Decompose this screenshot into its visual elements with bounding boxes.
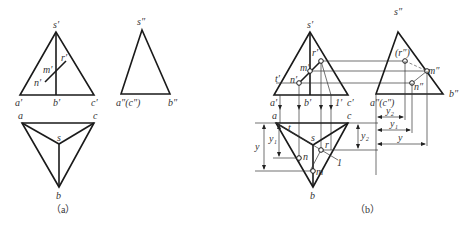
label-c: c	[347, 110, 352, 121]
label-c-prime: c′	[347, 97, 354, 108]
projection-diagram: s′ a′ b′ c′ m′ n′ r′ s″ a″(c″) b″ a c s …	[0, 0, 470, 231]
label-s-prime: s′	[53, 19, 60, 30]
label-t: t	[288, 122, 291, 133]
dim-y1-top: y₁	[268, 133, 277, 144]
label-b-prime: b′	[53, 97, 61, 108]
label-r-dprime: (r″)	[395, 47, 410, 59]
label-s: s	[57, 132, 61, 143]
caption-b: （b）	[355, 204, 380, 215]
top-view-b: a c s b n m r t 1 y y₁ y₂	[254, 110, 378, 201]
front-view-a: s′ a′ b′ c′ m′ n′ r′	[15, 19, 98, 108]
dim-y2-side: y₂	[385, 105, 394, 116]
label-b-dprime: b″	[168, 97, 178, 108]
label-s: s	[311, 132, 315, 143]
label-ac-dprime: a″(c″)	[116, 97, 141, 109]
label-s-dprime: s″	[394, 6, 403, 17]
dim-y2-top: y₂	[360, 130, 369, 141]
label-c-prime: c′	[91, 97, 98, 108]
dim-y1-side: y₁	[389, 118, 398, 129]
label-n-prime: n′	[34, 77, 42, 88]
dim-y-top: y	[254, 141, 260, 152]
panel-b: s′ a′ b′ 1′ c′ m′ n′ r′ t′	[254, 6, 459, 215]
label-b: b	[56, 190, 61, 201]
label-r: r	[325, 139, 329, 150]
label-n-prime: n′	[290, 74, 298, 85]
side-view-b: s″ a″(c″) b″ m″ n″ (r″) y₂ y₁ y	[370, 6, 459, 175]
label-r-prime: r′	[312, 47, 319, 58]
label-b-dprime: b″	[449, 88, 459, 99]
top-view-a: a c s b	[18, 110, 98, 201]
label-m-dprime: m″	[428, 65, 440, 76]
label-r-prime: r′	[61, 52, 68, 63]
label-a-prime: a′	[15, 97, 23, 108]
label-n: n	[303, 151, 308, 162]
panel-a: s′ a′ b′ c′ m′ n′ r′ s″ a″(c″) b″ a c s …	[15, 16, 178, 215]
label-m: m	[316, 166, 323, 177]
label-a: a	[18, 110, 23, 121]
label-b-prime: b′	[304, 97, 312, 108]
label-m-prime: m′	[300, 62, 310, 73]
label-t-prime: t′	[275, 73, 281, 84]
caption-a: （a）	[51, 204, 75, 215]
label-a-prime: a′	[270, 97, 278, 108]
label-s-prime: s′	[307, 19, 314, 30]
label-n-dprime: n″	[414, 81, 424, 92]
label-a: a	[272, 110, 277, 121]
label-m-prime: m′	[43, 64, 53, 75]
label-1: 1	[337, 157, 342, 168]
label-c: c	[93, 110, 98, 121]
label-1-prime: 1′	[335, 97, 343, 108]
label-b: b	[310, 190, 315, 201]
label-s-dprime: s″	[137, 16, 146, 27]
dim-y-side: y	[397, 132, 403, 143]
side-view-a: s″ a″(c″) b″	[116, 16, 178, 109]
